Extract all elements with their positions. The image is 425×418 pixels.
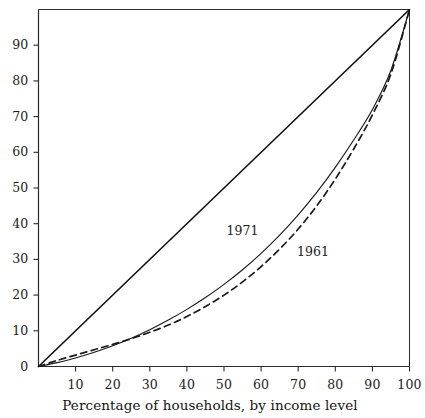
x-axis-tick-label: 10 (61, 377, 91, 392)
y-axis-tick-label: 50 (3, 180, 29, 195)
y-axis-tick-label: 90 (3, 37, 29, 52)
x-axis-tick-label: 90 (357, 377, 387, 392)
x-axis-tick-label: 40 (172, 377, 202, 392)
x-axis-caption: Percentage of households, by income leve… (0, 397, 420, 413)
x-axis-tick-label: 100 (395, 377, 425, 392)
series-line-line-of-equality (39, 10, 410, 367)
x-axis-tick-label: 80 (320, 377, 350, 392)
y-axis-tick-label: 20 (3, 287, 29, 302)
series-annotation-1961: 1961 (297, 244, 329, 259)
y-axis-tick-label: 40 (3, 216, 29, 231)
y-axis-tick-label: 30 (3, 251, 29, 266)
x-axis-tick-label: 20 (98, 377, 128, 392)
series-annotation-1971: 1971 (227, 223, 259, 238)
x-axis-tick-label: 70 (283, 377, 313, 392)
x-axis-tick-label: 50 (209, 377, 239, 392)
x-axis-tick-label: 60 (246, 377, 276, 392)
y-axis-tick-label: 10 (3, 323, 29, 338)
x-axis-tick-label: 30 (135, 377, 165, 392)
y-axis-tick-label: 0 (3, 359, 29, 374)
y-axis-tick-label: 60 (3, 144, 29, 159)
y-axis-tick-label: 70 (3, 109, 29, 124)
y-axis-tick-label: 80 (3, 73, 29, 88)
